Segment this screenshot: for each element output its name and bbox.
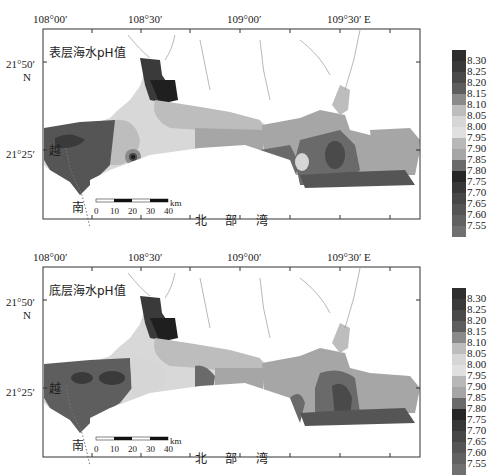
scale-bar <box>96 437 168 440</box>
place-label-wan: 湾 <box>256 211 268 228</box>
panel-title: 表层海水pH值 <box>49 43 126 60</box>
country-label-vietnam: 越 <box>49 379 61 396</box>
surface-ph-contour-map <box>0 0 500 230</box>
country-label-vietnam: 越 <box>49 141 61 158</box>
place-label-bu: 部 <box>225 211 237 228</box>
place-label-nan: 南 <box>72 436 84 453</box>
ph-color-legend <box>452 288 466 475</box>
ph-legend-labels: 8.308.258.208.158.108.058.007.957.907.85… <box>467 55 486 231</box>
ph-color-legend <box>452 50 466 237</box>
place-label-bu: 部 <box>225 449 237 466</box>
surface-ph-map-panel: 108°00′ 108°30′ 109°00′ 109°30′ E 21°50′… <box>0 0 500 230</box>
place-label-bei: 北 <box>195 211 207 228</box>
scale-bar <box>96 199 168 202</box>
bottom-ph-contour-map <box>0 238 500 468</box>
panel-title: 底层海水pH值 <box>49 281 126 298</box>
bottom-ph-map-panel: 108°00′ 108°30′ 109°00′ 109°30′ E 21°50′… <box>0 238 500 468</box>
place-label-bei: 北 <box>195 449 207 466</box>
place-label-nan: 南 <box>72 198 84 215</box>
place-label-wan: 湾 <box>256 449 268 466</box>
ph-legend-labels: 8.308.258.208.158.108.058.007.957.907.85… <box>467 293 486 469</box>
